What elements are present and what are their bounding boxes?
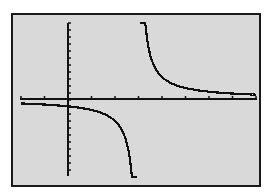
function-graph [13,15,259,185]
right-branch-curve [140,23,256,95]
calculator-screen [11,13,261,187]
left-branch-curve [21,103,137,177]
